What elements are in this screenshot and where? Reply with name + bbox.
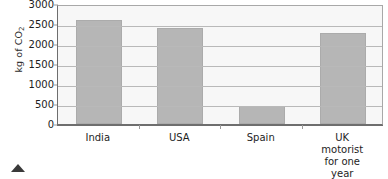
x-tick-label: India [85,132,110,144]
x-tick-label: USA [169,132,190,144]
y-axis-ticks: 050010001500200025003000 [16,5,57,125]
y-tick-label: 1000 [29,80,54,90]
gridline [58,106,382,107]
x-tick-mark [220,125,221,129]
x-tick-mark [302,125,303,129]
triangle-up-marker [11,164,25,172]
bar-india [76,20,122,124]
y-tick-label: 1500 [29,60,54,70]
bar-usa [157,28,203,124]
x-tick-label: Spain [247,132,275,144]
y-tick-label: 500 [35,100,54,110]
x-tick-label: UK motorist for one year [319,132,365,179]
gridline [58,46,382,47]
y-tick-label: 2500 [29,20,54,30]
y-tick-label: 2000 [29,40,54,50]
bar-spain [239,106,285,124]
gridline [58,86,382,87]
gridline [58,66,382,67]
y-tick-label: 3000 [29,0,54,10]
x-tick-mark [139,125,140,129]
bar-chart: kg of CO2 050010001500200025003000 India… [0,0,388,179]
gridline [58,26,382,27]
plot-area [57,5,383,125]
